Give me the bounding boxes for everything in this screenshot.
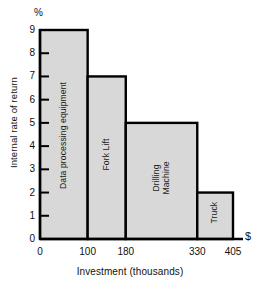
y-tick-label-7: 7 <box>21 71 35 81</box>
bar-label-3: Drilling Machine <box>152 113 171 243</box>
plot-svg <box>0 0 270 285</box>
x-tick-label-100: 100 <box>68 247 108 257</box>
y-tick-label-3: 3 <box>21 164 35 174</box>
y-tick-label-0: 0 <box>21 234 35 244</box>
bar-label-2: Fork Lift <box>102 90 112 220</box>
bar-label-1: Data processing equipment <box>59 70 69 200</box>
y-tick-label-1: 1 <box>21 211 35 221</box>
y-tick-label-5: 5 <box>21 118 35 128</box>
y-tick-label-8: 8 <box>21 48 35 58</box>
x-tick-label-0: 0 <box>20 247 60 257</box>
y-tick-label-9: 9 <box>21 25 35 35</box>
y-tick-label-4: 4 <box>21 141 35 151</box>
x-tick-label-180: 180 <box>106 247 146 257</box>
plot-area: 98765432100100180330405Data processing e… <box>0 0 270 285</box>
investment-irr-bar-chart: Internal rate of return % $ Investment (… <box>0 0 270 285</box>
y-tick-label-6: 6 <box>21 95 35 105</box>
bar-label-4: Truck <box>210 148 220 278</box>
y-tick-label-2: 2 <box>21 188 35 198</box>
